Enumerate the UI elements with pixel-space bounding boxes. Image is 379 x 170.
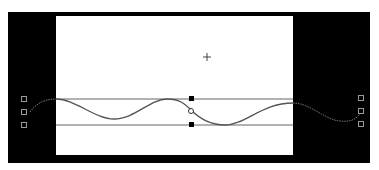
- node-square-icon[interactable]: [21, 109, 27, 115]
- crosshair-icon: [203, 53, 211, 61]
- path-overlay: [0, 0, 379, 170]
- pivot-circle-icon[interactable]: [188, 108, 194, 114]
- node-square-icon[interactable]: [358, 95, 364, 101]
- anchor-handle-top[interactable]: [189, 96, 194, 101]
- anchor-handle-bottom[interactable]: [189, 122, 194, 127]
- offstage-curve-right: [293, 103, 360, 121]
- offstage-curve-left: [30, 99, 56, 112]
- motion-path-curve[interactable]: [56, 99, 293, 125]
- node-square-icon[interactable]: [358, 108, 364, 114]
- node-square-icon[interactable]: [358, 121, 364, 127]
- node-square-icon[interactable]: [21, 122, 27, 128]
- node-square-icon[interactable]: [21, 96, 27, 102]
